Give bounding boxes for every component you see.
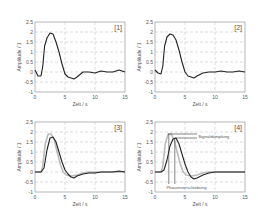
y-axis-label: Amplitude / 1: [16, 142, 22, 171]
y-tick-label: 1: [30, 49, 33, 55]
y-tick-label: 0: [150, 169, 153, 175]
panel-label: [4]: [234, 124, 242, 132]
y-tick-label: 2: [30, 129, 33, 135]
y-tick-label: -1: [29, 89, 34, 95]
y-tick-label: 2.5: [146, 119, 153, 125]
y-axis-label: Amplitude / 1: [16, 42, 22, 71]
chart-panel-3: -1-0.500.511.522.5051015Zeit / sAmplitud…: [16, 119, 128, 207]
x-tick-label: 5: [184, 94, 187, 100]
x-tick-label: 10: [92, 194, 98, 200]
y-tick-label: 2: [150, 129, 153, 135]
y-axis-label: Amplitude / 1: [136, 142, 142, 171]
x-axis-label: Zeit / s: [192, 101, 208, 107]
series-line: [155, 34, 245, 78]
y-tick-label: -0.5: [24, 79, 33, 85]
y-tick-label: 1: [30, 149, 33, 155]
y-tick-label: 0.5: [26, 59, 33, 65]
y-axis-label: Amplitude / 1: [136, 42, 142, 71]
y-tick-label: 2: [30, 29, 33, 35]
y-tick-label: 0: [150, 69, 153, 75]
x-tick-label: 0: [34, 94, 37, 100]
y-tick-label: 1: [150, 49, 153, 55]
y-tick-label: 2.5: [146, 19, 153, 25]
x-tick-label: 15: [242, 94, 248, 100]
x-tick-label: 15: [122, 94, 128, 100]
axes-frame: [155, 22, 245, 92]
chart-panel-1: -1-0.500.511.522.5051015Zeit / sAmplitud…: [16, 19, 128, 107]
y-tick-label: 0: [30, 69, 33, 75]
y-tick-label: 2: [150, 29, 153, 35]
panel-label: [1]: [114, 24, 122, 32]
y-tick-label: -1: [149, 89, 154, 95]
series-line: [35, 134, 125, 176]
x-tick-label: 5: [184, 194, 187, 200]
x-tick-label: 10: [212, 94, 218, 100]
y-tick-label: 2.5: [26, 119, 33, 125]
x-tick-label: 0: [34, 194, 37, 200]
y-tick-label: -0.5: [144, 179, 153, 185]
y-tick-label: -1: [149, 189, 154, 195]
x-tick-label: 10: [212, 194, 218, 200]
axes-frame: [35, 122, 125, 192]
y-tick-label: 1: [150, 149, 153, 155]
y-tick-label: -1: [29, 189, 34, 195]
axes-frame: [35, 22, 125, 92]
y-tick-label: 0: [30, 169, 33, 175]
y-tick-label: 0.5: [146, 59, 153, 65]
y-tick-label: -0.5: [144, 79, 153, 85]
x-tick-label: 0: [154, 94, 157, 100]
panel-label: [2]: [234, 24, 242, 32]
x-tick-label: 5: [64, 194, 67, 200]
x-tick-label: 15: [122, 194, 128, 200]
y-tick-label: 0.5: [26, 159, 33, 165]
chart-panel-4: -1-0.500.511.522.5051015Zeit / sAmplitud…: [136, 119, 248, 207]
y-tick-label: 1.5: [26, 139, 33, 145]
x-tick-label: 0: [154, 194, 157, 200]
annotation-phase-shift: Phasenverschiebung: [166, 185, 207, 190]
x-tick-label: 15: [242, 194, 248, 200]
panel-label: [3]: [114, 124, 122, 132]
x-axis-label: Zeit / s: [192, 201, 208, 207]
y-tick-label: 1.5: [26, 39, 33, 45]
y-tick-label: 2.5: [26, 19, 33, 25]
x-axis-label: Zeit / s: [72, 101, 88, 107]
x-tick-label: 10: [92, 94, 98, 100]
chart-panel-2: -1-0.500.511.522.5051015Zeit / sAmplitud…: [136, 19, 248, 107]
annotation-signal-damping: Signaldämpfung: [198, 134, 230, 139]
y-tick-label: 1.5: [146, 39, 153, 45]
figure: -1-0.500.511.522.5051015Zeit / sAmplitud…: [0, 0, 258, 217]
y-tick-label: 0.5: [146, 159, 153, 165]
y-tick-label: 1.5: [146, 139, 153, 145]
x-tick-label: 5: [64, 94, 67, 100]
y-tick-label: -0.5: [24, 179, 33, 185]
x-axis-label: Zeit / s: [72, 201, 88, 207]
